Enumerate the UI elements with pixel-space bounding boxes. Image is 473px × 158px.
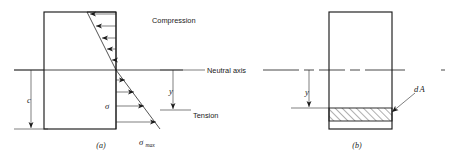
dimension-c-label: c bbox=[27, 95, 31, 105]
elemental-area-strip bbox=[329, 108, 392, 121]
figure-caption-b: (b) bbox=[352, 141, 362, 150]
svg-text:max: max bbox=[146, 142, 156, 148]
dA-leader-line bbox=[392, 93, 415, 112]
compression-arrow-group bbox=[90, 14, 116, 60]
sigma-max-label: σ max bbox=[139, 137, 155, 148]
beam-section-outline-a bbox=[44, 12, 116, 129]
panel-b: y d A (b) bbox=[263, 12, 445, 150]
neutral-axis-label: Neutral axis bbox=[207, 66, 246, 75]
tension-label: Tension bbox=[193, 111, 218, 120]
figure-caption-a: (a) bbox=[96, 141, 106, 150]
compression-stress-profile-edge bbox=[87, 12, 116, 70]
svg-text:d: d bbox=[414, 84, 419, 94]
tension-stress-profile-edge bbox=[116, 70, 160, 129]
figure-canvas: Compression Neutral axis Tension c y σ σ… bbox=[0, 0, 473, 158]
compression-label: Compression bbox=[152, 16, 196, 25]
svg-text:σ: σ bbox=[139, 137, 144, 147]
dimension-y-label-a: y bbox=[168, 86, 173, 96]
svg-text:A: A bbox=[419, 84, 426, 94]
dimension-y-label-b: y bbox=[304, 87, 309, 97]
bending-stress-figure: Compression Neutral axis Tension c y σ σ… bbox=[0, 0, 473, 158]
sigma-label: σ bbox=[105, 101, 110, 111]
panel-a: Compression Neutral axis Tension c y σ σ… bbox=[14, 12, 246, 150]
dA-label: d A bbox=[414, 84, 426, 94]
